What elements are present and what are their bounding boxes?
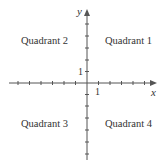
y-axis-label: y (76, 5, 82, 17)
y-axis-arrow-icon (84, 9, 90, 16)
quadrant-1-label: Quadrant 1 (105, 35, 152, 46)
quadrant-3-label: Quadrant 3 (21, 118, 68, 129)
x-unit-label: 1 (95, 86, 100, 97)
x-axis-label: x (150, 86, 156, 98)
coordinate-plane: y x 1 1 Quadrant 2 Quadrant 1 Quadrant 3… (0, 0, 167, 168)
quadrant-2-label: Quadrant 2 (21, 35, 68, 46)
y-unit-label: 1 (78, 66, 83, 77)
quadrant-4-label: Quadrant 4 (105, 118, 153, 129)
